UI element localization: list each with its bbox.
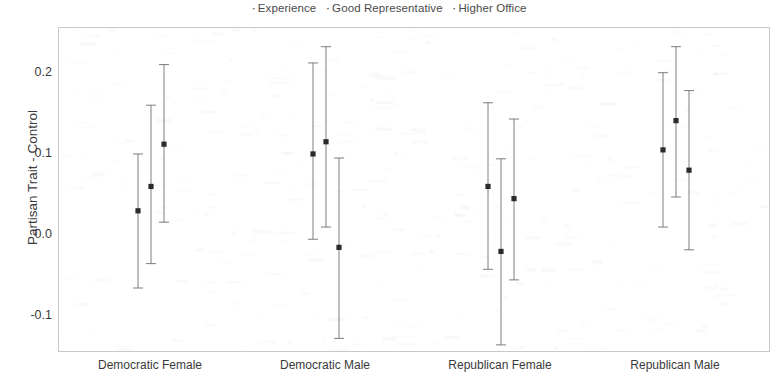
data-point-marker <box>511 196 516 201</box>
error-bar <box>308 63 318 239</box>
data-point-marker <box>310 151 315 156</box>
chart-legend: ·Experience ·Good Representative ·Higher… <box>0 1 778 14</box>
data-point-marker <box>161 142 166 147</box>
error-bar <box>496 159 506 345</box>
y-axis-tick-label: 0.1 <box>6 146 52 160</box>
data-point-marker <box>660 147 665 152</box>
legend-dot-icon: · <box>452 1 456 14</box>
y-axis-tick-label: 0.0 <box>6 227 52 241</box>
data-point-marker <box>498 249 503 254</box>
data-point-marker <box>323 139 328 144</box>
error-bar <box>146 105 156 263</box>
error-bar <box>658 73 668 227</box>
legend-entry-good-representative: ·Good Representative <box>326 1 443 14</box>
x-axis-tick-label: Republican Female <box>448 358 551 372</box>
error-bar <box>509 119 519 280</box>
error-bar <box>133 154 143 288</box>
y-axis-tick-label: -0.1 <box>6 308 52 322</box>
data-point-marker <box>673 118 678 123</box>
error-bar <box>334 158 344 338</box>
chart-figure: ·Experience ·Good Representative ·Higher… <box>0 0 778 381</box>
error-bar <box>159 65 169 223</box>
x-axis-tick-label: Democratic Male <box>280 358 370 372</box>
data-point-marker <box>485 184 490 189</box>
data-point-marker <box>686 168 691 173</box>
x-axis-tick-label: Republican Male <box>630 358 719 372</box>
legend-entry-higher-office: ·Higher Office <box>452 1 527 14</box>
series-experience <box>133 63 668 288</box>
legend-dot-icon: · <box>326 1 330 14</box>
error-bar <box>321 47 331 227</box>
y-axis-tick-labels: 0.20.10.0-0.1 <box>0 0 52 381</box>
legend-label-higher-office: Higher Office <box>458 2 526 14</box>
legend-entry-experience: ·Experience <box>251 1 316 14</box>
legend-dot-icon: · <box>251 1 255 14</box>
error-bar <box>483 103 493 270</box>
data-point-marker <box>148 184 153 189</box>
error-bar-series-layer <box>59 28 771 353</box>
legend-label-good-representative: Good Representative <box>332 2 443 14</box>
error-bar <box>684 91 694 250</box>
legend-label-experience: Experience <box>258 2 317 14</box>
series-higher-office <box>159 65 694 339</box>
x-axis-tick-label: Democratic Female <box>98 358 202 372</box>
series-good-representative <box>146 47 681 345</box>
data-point-marker <box>135 208 140 213</box>
y-axis-tick-label: 0.2 <box>6 65 52 79</box>
error-bar <box>671 47 681 197</box>
plot-area <box>58 27 770 352</box>
data-point-marker <box>336 245 341 250</box>
